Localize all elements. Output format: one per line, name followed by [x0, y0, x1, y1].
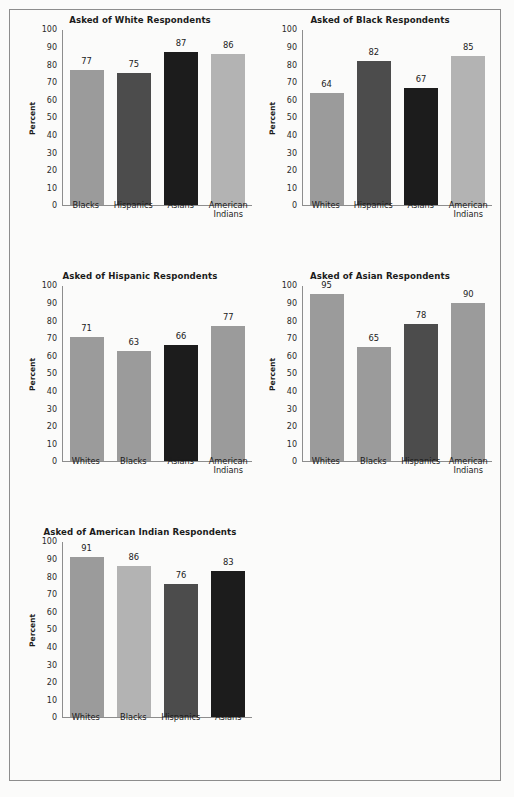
- y-tick-label: 70: [287, 335, 297, 343]
- y-tick-label: 80: [287, 318, 297, 326]
- y-axis-label-hispanic-respondents: Percent: [26, 286, 40, 462]
- chart-grid: Asked of White RespondentsPercent1009080…: [10, 10, 500, 780]
- x-axis-category-label: Whites: [62, 454, 110, 475]
- y-axis-label-text: Percent: [269, 102, 278, 135]
- y-axis-ticks-hispanic-respondents: 1009080706050403020100: [40, 286, 60, 462]
- bar-slot: 77: [63, 30, 110, 205]
- bar-value-label: 66: [176, 332, 187, 340]
- y-tick-label: 40: [47, 388, 57, 396]
- bars-container: 64826785: [303, 30, 492, 205]
- y-tick-label: 50: [47, 370, 57, 378]
- x-axis-category-label: Whites: [302, 198, 350, 219]
- y-tick-label: 60: [287, 353, 297, 361]
- y-tick-label: 100: [42, 538, 57, 546]
- bar[interactable]: 85: [451, 56, 485, 206]
- y-tick-label: 0: [52, 714, 57, 722]
- bar[interactable]: 63: [117, 351, 151, 462]
- bars-container: 91867683: [63, 542, 252, 717]
- y-axis-ticks-black-respondents: 1009080706050403020100: [280, 30, 300, 206]
- y-tick-label: 70: [287, 79, 297, 87]
- bar[interactable]: 95: [310, 294, 344, 461]
- y-tick-label: 80: [47, 318, 57, 326]
- plot-box-asian-respondents: 95657890: [302, 286, 492, 462]
- x-axis-category-label: American Indians: [205, 198, 253, 219]
- y-tick-label: 100: [282, 282, 297, 290]
- y-tick-label: 70: [47, 79, 57, 87]
- bar-value-label: 63: [129, 338, 140, 346]
- chart-panel-hispanic-respondents: Asked of Hispanic RespondentsPercent1009…: [26, 272, 254, 522]
- bar[interactable]: 65: [357, 347, 391, 461]
- bar-value-label: 85: [463, 43, 474, 51]
- bar-value-label: 77: [81, 57, 92, 65]
- bar[interactable]: 86: [211, 54, 245, 205]
- bar-value-label: 67: [416, 75, 427, 83]
- x-axis-category-label: Blacks: [350, 454, 398, 475]
- bar-value-label: 71: [81, 324, 92, 332]
- bar-slot: 67: [398, 30, 445, 205]
- bar[interactable]: 75: [117, 73, 151, 205]
- y-tick-label: 30: [287, 406, 297, 414]
- bar[interactable]: 76: [164, 584, 198, 718]
- bar-slot: 85: [445, 30, 492, 205]
- bar[interactable]: 78: [404, 324, 438, 461]
- bars-container: 71636677: [63, 286, 252, 461]
- bar[interactable]: 90: [451, 303, 485, 461]
- bar-slot: 64: [303, 30, 350, 205]
- plot-area-white-respondents: Percent100908070605040302010077758786: [26, 30, 254, 206]
- y-axis-label-black-respondents: Percent: [266, 30, 280, 206]
- bar-slot: 86: [110, 542, 157, 717]
- bar[interactable]: 86: [117, 566, 151, 717]
- bar[interactable]: 82: [357, 61, 391, 205]
- x-axis-labels-black-respondents: WhitesHispanicsAsiansAmerican Indians: [302, 198, 492, 219]
- bar-slot: 77: [205, 286, 252, 461]
- bar-value-label: 87: [176, 39, 187, 47]
- chart-title-white-respondents: Asked of White Respondents: [26, 16, 254, 25]
- y-tick-label: 10: [47, 697, 57, 705]
- plot-box-black-respondents: 64826785: [302, 30, 492, 206]
- y-axis-label-white-respondents: Percent: [26, 30, 40, 206]
- plot-area-american-indian-respondents: Percent100908070605040302010091867683: [26, 542, 254, 718]
- bar[interactable]: 91: [70, 557, 104, 717]
- chart-title-hispanic-respondents: Asked of Hispanic Respondents: [26, 272, 254, 281]
- bar[interactable]: 64: [310, 93, 344, 206]
- bar[interactable]: 87: [164, 52, 198, 205]
- y-axis-label-asian-respondents: Percent: [266, 286, 280, 462]
- x-axis-labels-white-respondents: BlacksHispanicsAsiansAmerican Indians: [62, 198, 252, 219]
- bar-slot: 75: [110, 30, 157, 205]
- y-axis-label-text: Percent: [29, 358, 38, 391]
- y-tick-label: 10: [47, 185, 57, 193]
- x-axis-category-label: Whites: [302, 454, 350, 475]
- y-tick-label: 20: [47, 423, 57, 431]
- x-axis-category-label: Blacks: [110, 454, 158, 475]
- y-tick-label: 80: [287, 62, 297, 70]
- bar-slot: 63: [110, 286, 157, 461]
- bar[interactable]: 66: [164, 345, 198, 461]
- bar[interactable]: 67: [404, 88, 438, 206]
- bar-slot: 87: [158, 30, 205, 205]
- y-axis-label-text: Percent: [269, 358, 278, 391]
- y-tick-label: 70: [47, 591, 57, 599]
- bar[interactable]: 83: [211, 571, 245, 717]
- y-axis-ticks-american-indian-respondents: 1009080706050403020100: [40, 542, 60, 718]
- y-tick-label: 90: [47, 556, 57, 564]
- x-axis-category-label: Blacks: [62, 198, 110, 219]
- bar-slot: 90: [445, 286, 492, 461]
- bar-value-label: 95: [321, 281, 332, 289]
- y-tick-label: 20: [287, 167, 297, 175]
- plot-area-hispanic-respondents: Percent100908070605040302010071636677: [26, 286, 254, 462]
- bar-slot: 83: [205, 542, 252, 717]
- x-axis-category-label: Whites: [62, 710, 110, 722]
- x-axis-category-label: Asians: [157, 454, 205, 475]
- x-axis-category-label: Asians: [157, 198, 205, 219]
- y-tick-label: 40: [287, 388, 297, 396]
- bar-value-label: 82: [369, 48, 380, 56]
- x-axis-category-label: Asians: [205, 710, 253, 722]
- bar-value-label: 91: [81, 544, 92, 552]
- bar[interactable]: 77: [70, 70, 104, 206]
- bar[interactable]: 77: [211, 326, 245, 462]
- y-tick-label: 60: [47, 609, 57, 617]
- y-tick-label: 40: [47, 644, 57, 652]
- bar-value-label: 83: [223, 558, 234, 566]
- y-tick-label: 0: [52, 458, 57, 466]
- bar[interactable]: 71: [70, 337, 104, 462]
